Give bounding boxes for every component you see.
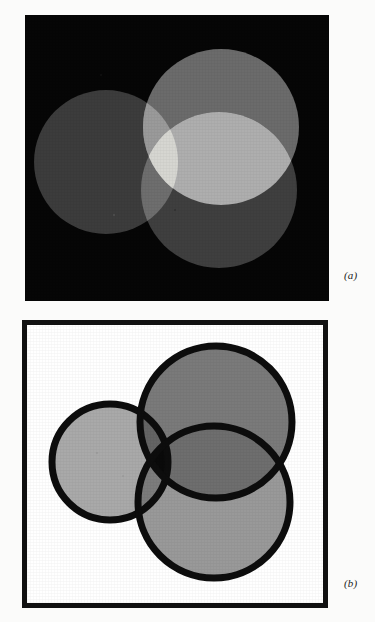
panel-b-label: (b) — [344, 577, 357, 589]
figure-root: (a) — [0, 0, 375, 622]
subtractive-mixing-svg — [27, 325, 323, 603]
panel-a-label: (a) — [344, 269, 357, 281]
panel-b-subtractive — [22, 320, 328, 608]
panel-a-additive — [25, 15, 329, 301]
additive-mixing-svg — [25, 15, 329, 301]
